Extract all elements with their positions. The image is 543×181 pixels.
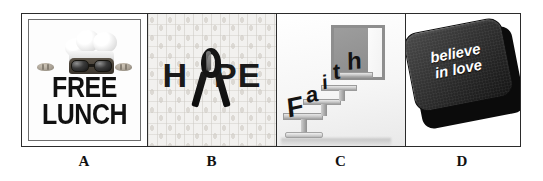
panel-a[interactable]: FREE LUNCH bbox=[22, 14, 148, 146]
panel-label-a: A bbox=[21, 150, 147, 176]
faith-letter-4: t bbox=[333, 60, 341, 83]
hope-artwork: HPE bbox=[148, 14, 276, 146]
panel-d[interactable]: believe in love bbox=[406, 14, 520, 146]
bread-roll-icon-left bbox=[37, 63, 54, 71]
panel-b[interactable]: HPE bbox=[148, 14, 277, 146]
chef-hat-icon bbox=[63, 28, 119, 62]
free-lunch-line-2: LUNCH bbox=[37, 101, 132, 128]
keyboard-key-icon: believe in love bbox=[406, 14, 520, 134]
free-lunch-text: FREE LUNCH bbox=[29, 74, 140, 127]
panel-labels: A B C D bbox=[21, 150, 521, 176]
poster-inner-frame: FREE LUNCH bbox=[28, 19, 141, 141]
faith-letter-5: h bbox=[347, 48, 362, 74]
floor-reflection bbox=[281, 138, 391, 146]
faith-letter-3: i bbox=[322, 72, 329, 93]
step-post-3 bbox=[339, 90, 345, 101]
faith-letter-1: F bbox=[286, 92, 305, 122]
panel-c[interactable]: F a i t h bbox=[277, 14, 406, 146]
believe-in-love-artwork: believe in love bbox=[406, 14, 520, 146]
bread-roll-icon-right bbox=[115, 63, 132, 71]
panel-label-b: B bbox=[147, 150, 276, 176]
faith-letter-2: a bbox=[305, 83, 319, 107]
step-post-2 bbox=[321, 104, 327, 116]
panel-label-c: C bbox=[276, 150, 405, 176]
poster-stage: FREE LUNCH bbox=[29, 20, 140, 140]
panel-row: FREE LUNCH HPE bbox=[21, 13, 521, 147]
awareness-ribbon-icon bbox=[194, 48, 228, 112]
hope-letter-h: H bbox=[163, 56, 189, 94]
panel-label-d: D bbox=[405, 150, 519, 176]
four-panel-figure: FREE LUNCH HPE bbox=[0, 0, 543, 181]
faith-artwork: F a i t h bbox=[277, 14, 405, 146]
free-lunch-line-1: FREE bbox=[37, 74, 132, 101]
free-lunch-artwork: FREE LUNCH bbox=[22, 14, 147, 146]
